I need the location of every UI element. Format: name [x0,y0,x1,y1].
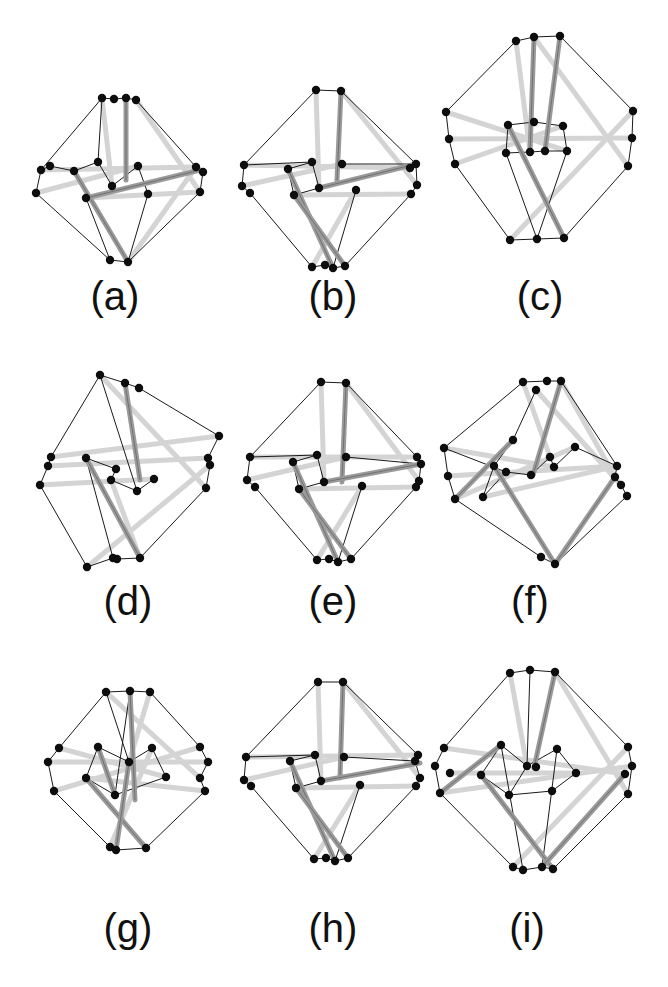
node [506,669,514,677]
node [286,757,294,765]
node [341,262,349,270]
node [477,771,485,779]
node [497,741,505,749]
node [543,377,551,385]
node [317,777,325,785]
node [295,485,303,493]
node [133,487,141,495]
node [504,121,512,129]
node [527,471,535,479]
node [613,462,621,470]
node [538,863,546,871]
node [559,122,567,130]
node [317,378,325,386]
node [344,854,352,862]
caption-i: (i) [509,906,545,950]
node [342,453,350,461]
node [202,484,210,492]
node [624,790,632,798]
node [82,194,90,202]
node [342,379,350,387]
node [628,134,636,142]
node [82,774,90,782]
node [548,787,556,795]
caption-h: (h) [309,906,358,950]
node [505,791,513,799]
node [352,186,360,194]
node [46,162,54,170]
node [358,482,366,490]
node [523,762,531,770]
node [122,94,130,102]
node [413,181,421,189]
node [526,666,534,674]
node [541,147,549,155]
caption-c: (c) [517,274,564,318]
node [82,454,90,462]
node [83,563,91,571]
node [238,182,246,190]
node [551,668,559,676]
node [337,87,345,95]
node [553,745,561,753]
node [629,107,637,115]
caption-g: (g) [104,906,153,950]
node [112,465,120,473]
node [451,495,459,503]
node [331,857,339,865]
node [240,161,248,169]
node [111,791,119,799]
node [532,763,540,771]
node [292,784,300,792]
node [313,451,321,459]
node [549,865,557,873]
node [96,371,104,379]
node [320,478,328,486]
node [533,235,541,243]
node [321,261,329,269]
node [550,463,558,471]
node [560,234,568,242]
node [204,758,212,766]
node [530,33,538,41]
node [94,158,102,166]
node [628,762,636,770]
node [102,688,110,696]
node [290,191,298,199]
node [617,481,625,489]
node [196,774,204,782]
node [502,149,510,157]
node [70,167,78,175]
node [36,481,44,489]
node [334,558,342,566]
node [47,453,55,461]
node [206,461,214,469]
node [440,444,448,452]
node [623,492,631,500]
node [289,458,297,466]
caption-b: (b) [309,274,358,318]
node [356,781,364,789]
node [512,37,520,45]
node [479,493,487,501]
caption-e: (e) [309,579,358,623]
node [136,554,144,562]
node [572,769,580,777]
node [571,443,579,451]
node [611,473,619,481]
node [308,263,316,271]
node [445,135,453,143]
node [107,476,115,484]
node [338,160,346,168]
node [150,475,158,483]
node [196,188,204,196]
node [519,866,527,874]
node [347,555,355,563]
node [490,462,498,470]
node [621,770,629,778]
node [509,863,517,871]
node [446,769,454,777]
figure-canvas: (a) (b) (c) (d) (e) (f) (g) (h) (i) [0,0,668,987]
node [55,744,63,752]
node [142,844,150,852]
